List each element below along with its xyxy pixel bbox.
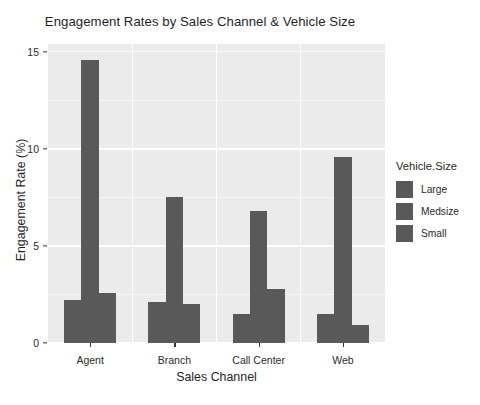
y-tick-mark (43, 342, 47, 343)
plot-panel (48, 44, 385, 343)
bar-call-center-large (233, 314, 250, 343)
y-tick-label: 15 (9, 46, 39, 58)
y-tick-label: 0 (9, 337, 39, 349)
y-tick-mark (43, 245, 47, 246)
x-tick-label: Branch (158, 354, 191, 366)
bar-chart: Engagement Rates by Sales Channel & Vehi… (0, 0, 480, 405)
bar-web-large (317, 314, 334, 343)
chart-title: Engagement Rates by Sales Channel & Vehi… (0, 14, 400, 29)
legend: Vehicle.Size LargeMedsizeSmall (396, 160, 480, 245)
x-tick-mark (343, 343, 344, 347)
gridline-vertical (216, 44, 217, 343)
bar-branch-medsize (166, 197, 183, 343)
legend-label: Medsize (421, 206, 459, 217)
x-tick-label: Web (332, 354, 353, 366)
x-tick-mark (259, 343, 260, 347)
y-axis-title: Engagement Rate (%) (14, 100, 28, 300)
legend-label: Small (421, 228, 446, 239)
bar-web-medsize (334, 157, 351, 343)
bar-agent-small (99, 293, 116, 343)
legend-title: Vehicle.Size (396, 160, 480, 172)
bar-call-center-small (267, 289, 284, 343)
gridline-vertical (132, 44, 133, 343)
legend-item-large[interactable]: Large (396, 179, 480, 200)
gridline-vertical (300, 44, 301, 343)
legend-swatch-icon (396, 181, 413, 198)
x-axis-title: Sales Channel (48, 370, 385, 384)
legend-label: Large (421, 184, 447, 195)
y-tick-mark (43, 51, 47, 52)
x-tick-mark (90, 343, 91, 347)
bar-web-small (352, 325, 369, 343)
x-tick-label: Agent (76, 354, 103, 366)
y-tick-mark (43, 148, 47, 149)
x-tick-mark (174, 343, 175, 347)
bar-branch-small (183, 304, 200, 343)
x-tick-label: Call Center (232, 354, 285, 366)
legend-swatch-icon (396, 203, 413, 220)
bar-agent-large (64, 300, 81, 343)
legend-swatch-icon (396, 225, 413, 242)
legend-items: LargeMedsizeSmall (396, 179, 480, 244)
bar-call-center-medsize (250, 211, 267, 343)
bar-branch-large (148, 302, 165, 343)
bar-agent-medsize (81, 60, 98, 343)
legend-item-medsize[interactable]: Medsize (396, 201, 480, 222)
legend-item-small[interactable]: Small (396, 223, 480, 244)
